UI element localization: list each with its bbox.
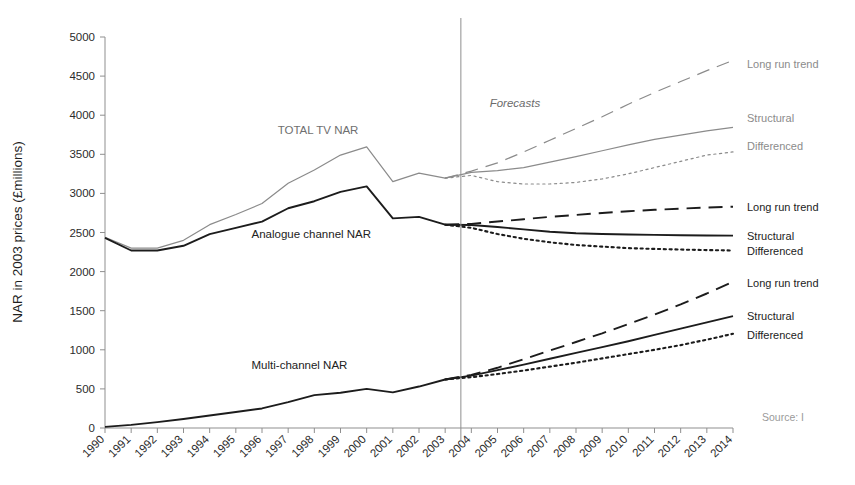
series-total-tv-nar-structural xyxy=(445,127,733,178)
y-tick-label: 500 xyxy=(76,383,95,395)
series-total-tv-nar-long-run-trend xyxy=(445,60,733,178)
x-tick-label: 2007 xyxy=(525,433,552,460)
chart-container: 0500100015002000250030003500400045005000… xyxy=(0,0,855,485)
x-tick-label: 2013 xyxy=(682,433,709,460)
x-tick-labels: 1990199119921993199419951996199719981999… xyxy=(80,433,735,460)
x-tick-label: 1997 xyxy=(263,433,290,460)
x-tick-label: 2014 xyxy=(708,433,735,460)
y-tick-label: 0 xyxy=(89,422,95,434)
y-tick-label: 2500 xyxy=(69,227,95,239)
series-analogue-structural xyxy=(445,225,733,236)
y-tick-label: 3000 xyxy=(69,187,95,199)
annotation-total-tv-nar: TOTAL TV NAR xyxy=(278,124,359,136)
x-tick-label: 2012 xyxy=(655,433,682,460)
x-tick-label: 2001 xyxy=(368,433,395,460)
annotation-forecasts: Forecasts xyxy=(490,97,541,109)
x-tick-label: 1998 xyxy=(289,433,316,460)
x-tick-label: 2010 xyxy=(603,433,630,460)
y-tick-labels: 0500100015002000250030003500400045005000 xyxy=(69,31,95,434)
x-tick-label: 2009 xyxy=(577,433,604,460)
annotation-analogue-channel-nar: Analogue channel NAR xyxy=(252,228,372,240)
right-label-differenced: Differenced xyxy=(747,329,803,341)
y-tick-label: 3500 xyxy=(69,148,95,160)
x-tick-label: 1992 xyxy=(132,433,159,460)
y-tick-label: 1500 xyxy=(69,305,95,317)
annotation-multi-channel-nar: Multi-channel NAR xyxy=(252,359,348,371)
x-tick-label: 2004 xyxy=(446,433,473,460)
x-tick-label: 1993 xyxy=(158,433,185,460)
x-tick-label: 2002 xyxy=(394,433,421,460)
series-analogue-differenced xyxy=(445,225,733,251)
x-tick-label: 2000 xyxy=(341,433,368,460)
source-note: Source: I xyxy=(762,411,804,423)
nar-forecast-line-chart: 0500100015002000250030003500400045005000… xyxy=(0,0,855,485)
right-label-structural: Structural xyxy=(747,310,794,322)
series-group xyxy=(105,60,733,426)
y-tick-label: 4000 xyxy=(69,109,95,121)
x-tick-label: 1990 xyxy=(80,433,107,460)
x-tick-label: 1996 xyxy=(237,433,264,460)
x-tick-label: 2006 xyxy=(498,433,525,460)
right-label-long-run-trend: Long run trend xyxy=(747,58,819,70)
right-label-structural: Structural xyxy=(747,230,794,242)
x-tick-label: 2003 xyxy=(420,433,447,460)
x-tick-label: 2011 xyxy=(630,433,656,459)
x-tick-label: 1994 xyxy=(184,433,211,460)
series-total-tv-nar-differenced xyxy=(445,152,733,184)
y-axis-title: NAR in 2003 prices (£millions) xyxy=(10,141,25,323)
right-label-differenced: Differenced xyxy=(747,140,803,152)
x-tick-label: 1999 xyxy=(315,433,342,460)
right-label-long-run-trend: Long run trend xyxy=(747,201,819,213)
x-tick-label: 2008 xyxy=(551,433,578,460)
right-label-long-run-trend: Long run trend xyxy=(747,277,819,289)
series-analogue-channel-nar xyxy=(105,186,445,250)
x-tick-label: 1991 xyxy=(106,433,133,460)
x-tick-label: 2005 xyxy=(472,433,499,460)
y-tick-label: 1000 xyxy=(69,344,95,356)
right-label-structural: Structural xyxy=(747,112,794,124)
y-tick-label: 5000 xyxy=(69,31,95,43)
y-tick-label: 4500 xyxy=(69,70,95,82)
x-tick-label: 1995 xyxy=(211,433,238,460)
y-tick-label: 2000 xyxy=(69,266,95,278)
series-analogue-long-run-trend xyxy=(445,207,733,225)
right-series-labels: Long run trendStructuralDifferencedLong … xyxy=(747,58,819,341)
series-multi-channel-long-run-trend xyxy=(445,282,733,380)
right-label-differenced: Differenced xyxy=(747,245,803,257)
series-multi-channel-nar xyxy=(105,380,445,427)
